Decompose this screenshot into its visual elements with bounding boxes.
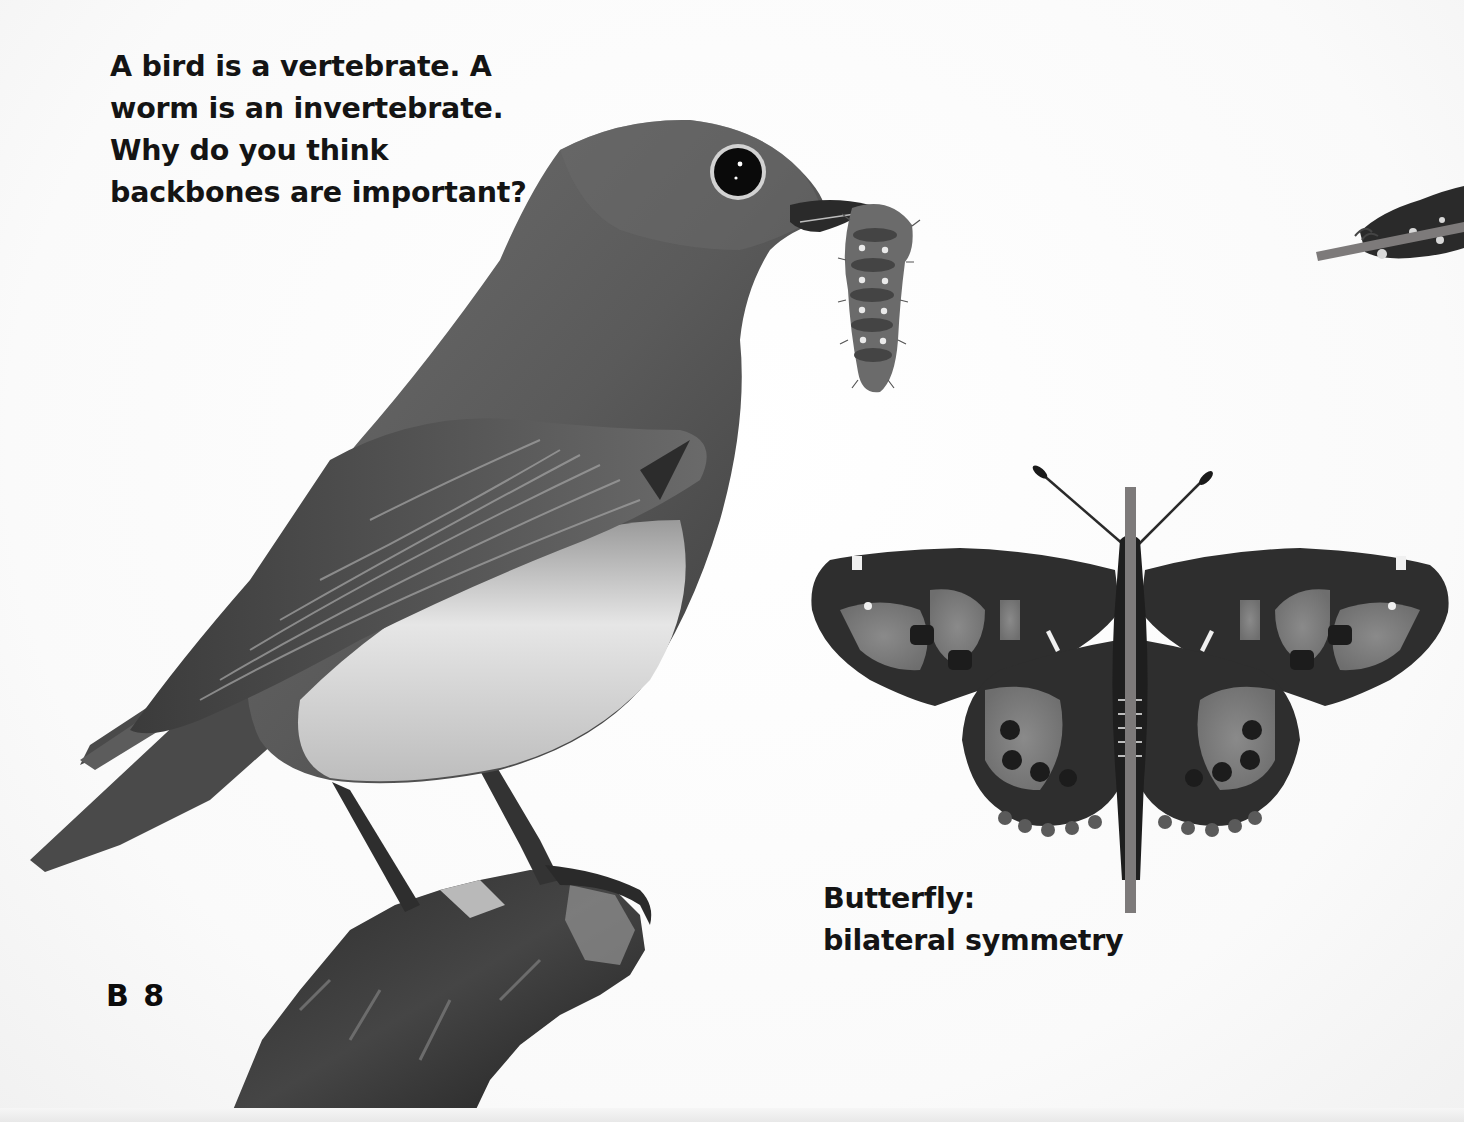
butterfly-caption: Butterfly: bilateral symmetry	[823, 878, 1123, 962]
question-line-2: worm is an invertebrate.	[110, 88, 530, 130]
butterfly-shape	[811, 463, 1448, 913]
page-number: B 8	[106, 978, 166, 1013]
caption-line-2: bilateral symmetry	[823, 920, 1123, 962]
question-line-4: backbones are important?	[110, 172, 530, 214]
caterpillar-shape	[838, 204, 920, 392]
partial-caterpillar-shape	[1316, 186, 1464, 261]
caption-line-1: Butterfly:	[823, 878, 1123, 920]
bird-shape	[30, 120, 870, 925]
question-line-3: Why do you think	[110, 130, 530, 172]
page-bottom-edge	[0, 1108, 1464, 1122]
question-line-1: A bird is a vertebrate. A	[110, 46, 530, 88]
branch-shape	[228, 870, 645, 1122]
question-text: A bird is a vertebrate. A worm is an inv…	[110, 46, 530, 214]
textbook-page: A bird is a vertebrate. A worm is an inv…	[0, 0, 1464, 1122]
